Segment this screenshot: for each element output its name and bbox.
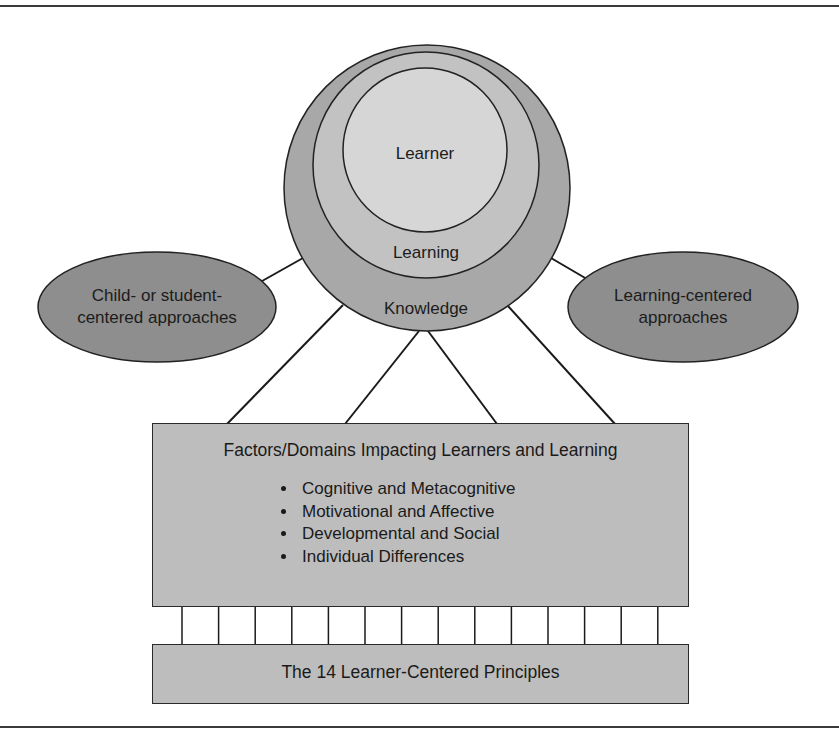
learning-centered-label: Learning-centered approaches xyxy=(571,285,795,329)
child-centered-line-1: Child- or student- xyxy=(45,285,269,307)
learning-label: Learning xyxy=(366,242,486,264)
principles-label: The 14 Learner-Centered Principles xyxy=(153,662,688,683)
learning-centered-line-2: approaches xyxy=(571,307,795,329)
connector-line-3 xyxy=(428,331,497,424)
ladder-posts xyxy=(182,606,658,645)
factor-item: Motivational and Affective xyxy=(298,501,516,524)
learner-label: Learner xyxy=(365,143,485,165)
factor-item: Cognitive and Metacognitive xyxy=(298,478,516,501)
child-centered-label: Child- or student- centered approaches xyxy=(45,285,269,329)
factor-item: Individual Differences xyxy=(298,546,516,569)
factors-list: Cognitive and Metacognitive Motivational… xyxy=(276,478,516,568)
factor-item: Developmental and Social xyxy=(298,523,516,546)
child-centered-line-2: centered approaches xyxy=(45,307,269,329)
diagram-graphics xyxy=(0,0,839,742)
learning-centered-line-1: Learning-centered xyxy=(571,285,795,307)
connector-line-2 xyxy=(345,331,419,424)
factors-box: Factors/Domains Impacting Learners and L… xyxy=(152,423,689,607)
factors-title: Factors/Domains Impacting Learners and L… xyxy=(153,440,688,461)
knowledge-label: Knowledge xyxy=(356,298,496,320)
principles-box: The 14 Learner-Centered Principles xyxy=(152,644,689,704)
